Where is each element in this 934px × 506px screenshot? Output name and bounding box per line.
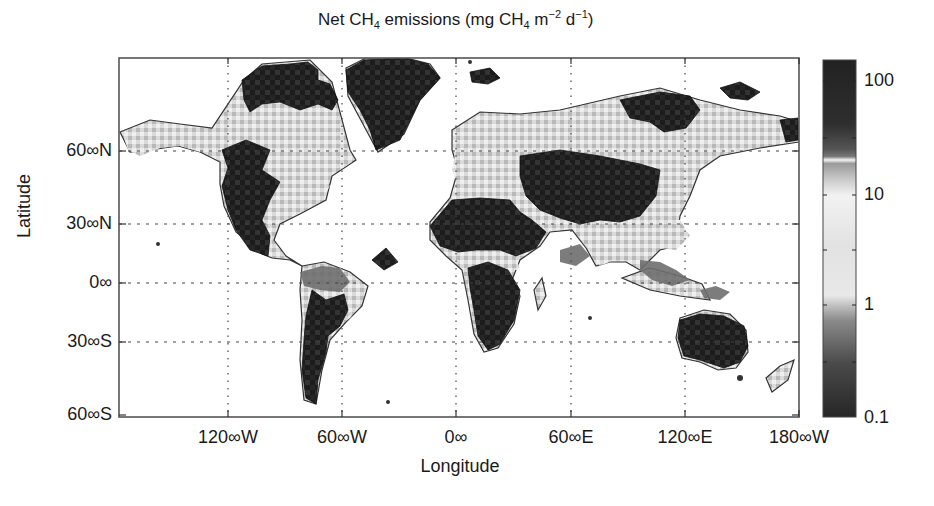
island (156, 242, 160, 246)
x-tick-label: 180∞W (749, 427, 849, 448)
colorbar (823, 60, 856, 417)
y-tick-label: 60∞N (12, 140, 112, 161)
y-tick-label: 30∞S (12, 331, 112, 352)
y-tick-label: 0∞ (12, 272, 112, 293)
x-tick-label: 60∞W (292, 427, 392, 448)
island (468, 60, 472, 64)
island (386, 400, 390, 404)
region-high (242, 62, 338, 112)
land-outline (766, 360, 794, 392)
colorbar-tick-label: 1 (864, 294, 874, 315)
region-high (470, 68, 500, 84)
x-tick-label: 120∞E (635, 427, 735, 448)
region-high (720, 82, 760, 100)
colorbar-tick-label: 0.1 (864, 407, 889, 428)
island (588, 316, 592, 320)
land-layer (120, 58, 799, 404)
y-tick-label: 30∞N (12, 213, 112, 234)
x-tick-label: 60∞E (521, 427, 621, 448)
y-tick-label: 60∞S (12, 404, 112, 425)
region-high (346, 58, 440, 150)
region-high (302, 290, 348, 404)
region-high (372, 248, 398, 270)
x-tick-label: 120∞W (178, 427, 278, 448)
island (737, 375, 743, 381)
colorbar-tick-label: 10 (864, 184, 884, 205)
x-axis-title: Longitude (410, 456, 510, 477)
colorbar-tick-label: 100 (864, 70, 894, 91)
x-tick-label: 0∞ (406, 427, 506, 448)
